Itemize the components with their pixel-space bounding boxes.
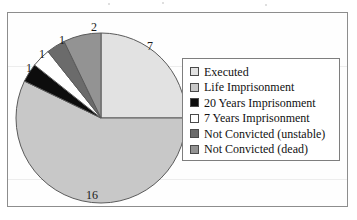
legend-swatch-7-years	[190, 114, 199, 123]
legend-item-not-convicted-unstable: Not Convicted (unstable)	[190, 126, 339, 142]
scan-artifacts	[0, 0, 357, 10]
chart-frame: 7 16 1 1 1 2 Executed Life Imprisonment …	[7, 12, 348, 207]
slice-label-20-years: 1	[26, 62, 32, 74]
legend-label-20-years: 20 Years Imprisonment	[204, 97, 316, 109]
pie-chart-svg	[8, 13, 198, 208]
slice-label-not-convicted-dead: 2	[91, 21, 97, 33]
legend-label-not-convicted-dead: Not Convicted (dead)	[204, 143, 308, 155]
legend-swatch-life-imprisonment	[190, 83, 199, 92]
legend-swatch-not-convicted-dead	[190, 145, 199, 154]
legend-item-not-convicted-dead: Not Convicted (dead)	[190, 142, 339, 158]
legend-swatch-not-convicted-unstable	[190, 129, 199, 138]
chart-legend: Executed Life Imprisonment 20 Years Impr…	[182, 58, 340, 161]
pie-chart: 7 16 1 1 1 2	[8, 13, 198, 208]
legend-label-executed: Executed	[204, 66, 249, 78]
legend-label-7-years: 7 Years Imprisonment	[204, 112, 310, 124]
legend-label-not-convicted-unstable: Not Convicted (unstable)	[204, 128, 325, 140]
legend-item-life-imprisonment: Life Imprisonment	[190, 80, 339, 96]
legend-label-life-imprisonment: Life Imprisonment	[204, 81, 294, 93]
legend-item-executed: Executed	[190, 64, 339, 80]
legend-item-7-years: 7 Years Imprisonment	[190, 111, 339, 127]
slice-label-life-imprisonment: 16	[86, 189, 98, 201]
slice-label-not-convicted-unstable: 1	[59, 34, 65, 46]
pie-slice	[101, 33, 186, 118]
slice-label-7-years: 1	[39, 48, 45, 60]
legend-item-20-years: 20 Years Imprisonment	[190, 95, 339, 111]
legend-swatch-20-years	[190, 98, 199, 107]
slice-label-executed: 7	[147, 40, 153, 52]
legend-swatch-executed	[190, 67, 199, 76]
